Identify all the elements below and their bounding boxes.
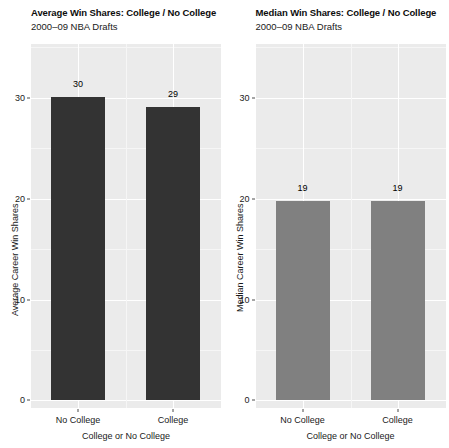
x-axis-title-average: College or No College [31,431,221,441]
y-tick-label-0: 0 [244,395,249,405]
y-tick-label-10: 10 [239,295,249,305]
bar-value-label-no-college: 30 [73,79,83,89]
x-tick-label-no-college: No College [280,415,325,425]
y-tick-mark-20 [252,199,255,200]
y-tick-mark-30 [27,98,30,99]
x-axis-title-median: College or No College [256,431,446,441]
minor-vgridline [351,44,352,408]
chart-header-median: Median Win Shares: College / No College … [256,6,446,33]
x-tick-label-college: College [382,415,413,425]
x-tick-mark-no-college [302,409,303,412]
x-tick-label-college: College [158,415,189,425]
bar-value-label-college: 29 [168,89,178,99]
y-tick-label-0: 0 [20,395,25,405]
y-tick-label-20: 20 [239,194,249,204]
y-tick-label-10: 10 [15,295,25,305]
y-tick-mark-20 [27,199,30,200]
x-tick-mark-no-college [78,409,79,412]
y-axis-ticks-average: 30 20 10 0 [0,0,25,448]
y-tick-mark-10 [27,300,30,301]
x-tick-mark-college [173,409,174,412]
minor-vgridline [126,44,127,408]
y-tick-label-20: 20 [15,194,25,204]
bar-no-college[interactable] [276,201,330,400]
y-tick-mark-30 [252,98,255,99]
x-tick-mark-college [397,409,398,412]
plot-area-average [31,44,221,408]
bar-value-label-college: 19 [392,183,402,193]
chart-header-average: Average Win Shares: College / No College… [31,6,221,33]
chart-title-median: Median Win Shares: College / No College [256,6,446,19]
bar-value-label-no-college: 19 [297,183,307,193]
chart-panel-average: Average Win Shares: College / No College… [0,0,225,448]
y-axis-ticks-median: 30 20 10 0 [225,0,250,448]
y-tick-mark-10 [252,300,255,301]
y-tick-label-30: 30 [15,93,25,103]
chart-panel-median: Median Win Shares: College / No College … [225,0,449,448]
bar-college[interactable] [146,107,200,400]
plot-area-median [256,44,446,408]
y-tick-mark-0 [27,400,30,401]
chart-title-average: Average Win Shares: College / No College [31,6,221,19]
x-tick-label-no-college: No College [56,415,101,425]
chart-subtitle-median: 2000–09 NBA Drafts [256,20,446,33]
figure-two-panel-bar-charts: Average Win Shares: College / No College… [0,0,449,448]
chart-subtitle-average: 2000–09 NBA Drafts [31,20,221,33]
bar-no-college[interactable] [51,97,105,400]
y-tick-mark-0 [252,400,255,401]
bar-college[interactable] [371,201,425,400]
y-tick-label-30: 30 [239,93,249,103]
